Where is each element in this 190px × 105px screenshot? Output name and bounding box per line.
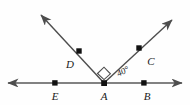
point-label-B: B: [144, 90, 151, 102]
point-label-D: D: [65, 58, 74, 70]
angle-label-40-degrees: 40°: [115, 64, 131, 79]
geometry-canvas: E A B D C 40°: [0, 0, 190, 105]
geometry-figure: E A B D C 40°: [0, 0, 190, 105]
point-label-A: A: [100, 90, 108, 102]
ray-AD: [41, 15, 104, 83]
point-C-dot: [136, 45, 141, 50]
ray-AC: [104, 20, 172, 83]
point-E-dot: [52, 80, 57, 85]
point-label-C: C: [147, 55, 155, 67]
point-B-dot: [141, 80, 146, 85]
point-A-dot: [101, 80, 107, 86]
point-label-E: E: [51, 90, 59, 102]
point-D-dot: [76, 48, 81, 53]
